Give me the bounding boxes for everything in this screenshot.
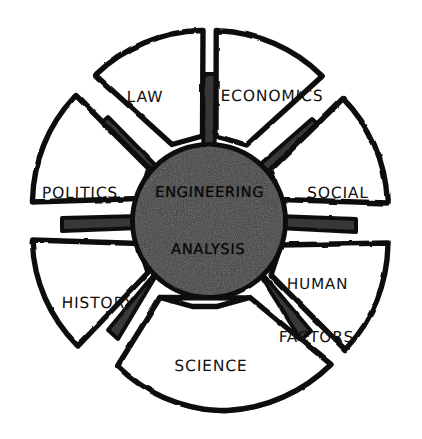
spoke-right [278, 216, 356, 232]
spoke-left [62, 216, 140, 231]
petal-social [271, 99, 388, 204]
wheel-graphic [0, 0, 422, 439]
petal-history [32, 240, 148, 346]
engineering-analysis-diagram: ENGINEERING ANALYSIS LAW ECONOMICS SOCIA… [0, 0, 422, 439]
hub-grain-overlay [135, 147, 283, 295]
hub-group [133, 145, 286, 298]
